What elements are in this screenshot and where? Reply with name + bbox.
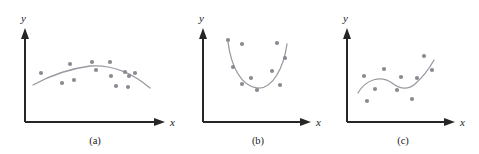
y-axis-arrow-icon-b (199, 28, 207, 39)
y-axis-label-c: y (342, 12, 348, 24)
x-axis-c (347, 118, 455, 126)
x-axis-arrow-icon-a (154, 118, 165, 126)
y-axis-label-a: y (20, 12, 26, 24)
panel-caption-b: (b) (252, 135, 265, 147)
x-axis-label-c: x (459, 116, 465, 128)
y-axis-arrow-icon-a (21, 28, 29, 39)
data-points-c (362, 54, 434, 103)
data-points-b (226, 38, 287, 92)
trend-curve-c (358, 60, 434, 93)
x-axis-arrow-icon-b (300, 118, 311, 126)
y-axis-a (21, 28, 29, 122)
x-axis-label-a: x (169, 116, 175, 128)
trend-curve-b (228, 42, 287, 88)
panel-b: y x (b) (180, 0, 325, 154)
y-axis-label-b: y (198, 12, 204, 24)
trend-curve-a (33, 66, 150, 88)
y-axis-arrow-icon-c (343, 28, 351, 39)
panel-a: y x (a) (0, 0, 180, 154)
x-axis-arrow-icon-c (444, 118, 455, 126)
y-axis-c (343, 28, 351, 122)
panel-caption-c: (c) (397, 135, 409, 147)
panel-caption-a: (a) (89, 135, 101, 147)
x-axis-label-b: x (315, 116, 321, 128)
y-axis-b (199, 28, 207, 122)
x-axis-a (25, 118, 165, 126)
panel-c: y x (c) (325, 0, 479, 154)
data-points-a (39, 60, 137, 89)
scatter-plot-figure: y x (a) (0, 0, 479, 154)
x-axis-b (203, 118, 311, 126)
